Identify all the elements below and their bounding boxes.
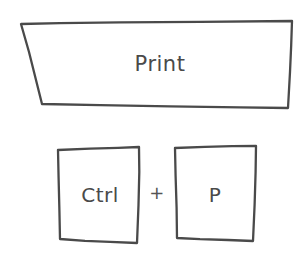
- print-banner-label: Print: [135, 52, 186, 76]
- print-banner[interactable]: Print: [21, 21, 292, 108]
- plus-sign: +: [149, 182, 165, 203]
- sketch-svg: Print Ctrl + P: [0, 0, 307, 267]
- key-ctrl-label: Ctrl: [81, 183, 119, 207]
- diagram-canvas: Print Ctrl + P: [0, 0, 307, 267]
- key-p-label: P: [209, 183, 222, 207]
- key-p[interactable]: P: [175, 146, 256, 241]
- key-ctrl[interactable]: Ctrl: [58, 147, 139, 243]
- plus-sign-label: +: [149, 182, 165, 203]
